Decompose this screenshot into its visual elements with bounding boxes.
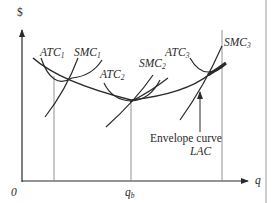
lac-label: LAC xyxy=(189,145,211,157)
y-axis-label: $ xyxy=(17,6,23,18)
envelope-curve-diagram: $ q 0 qb ATC1 SMC1 ATC2 SMC2 ATC3 SMC3 E… xyxy=(0,0,274,203)
atc2-label: ATC2 xyxy=(99,68,125,82)
smc2-label: SMC2 xyxy=(139,57,166,71)
atc3-label: ATC3 xyxy=(164,46,190,60)
x-axis-label: q xyxy=(255,174,261,187)
smc1-label: SMC1 xyxy=(74,46,101,60)
envelope-curve-label: Envelope curve xyxy=(150,132,222,145)
origin-label: 0 xyxy=(11,186,17,198)
atc2-curve xyxy=(104,80,160,101)
smc3-label: SMC3 xyxy=(224,36,251,50)
atc1-label: ATC1 xyxy=(39,46,64,60)
smc1-curve xyxy=(45,58,78,117)
atc3-curve xyxy=(190,58,226,72)
qb-tick-label: qb xyxy=(125,186,135,200)
